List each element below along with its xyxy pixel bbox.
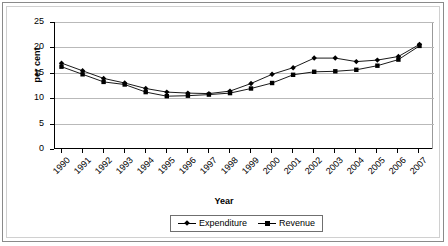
data-point-square bbox=[333, 69, 337, 73]
x-tick-mark bbox=[397, 149, 398, 153]
diamond-marker-icon bbox=[178, 219, 196, 228]
legend-label-revenue: Revenue bbox=[279, 218, 315, 228]
data-point-square bbox=[396, 57, 400, 61]
x-tick-mark bbox=[145, 149, 146, 153]
data-point-square bbox=[165, 94, 169, 98]
x-tick-mark bbox=[355, 149, 356, 153]
data-point-square bbox=[375, 64, 379, 68]
square-marker-icon bbox=[258, 219, 276, 228]
chart-figure: per cent 0510152025 19901991199219931994… bbox=[0, 0, 448, 246]
x-tick-mark bbox=[208, 149, 209, 153]
data-point-square bbox=[249, 86, 253, 90]
data-point-square bbox=[144, 90, 148, 94]
data-point-square bbox=[312, 70, 316, 74]
y-tick-label: 5 bbox=[8, 119, 44, 128]
x-tick-mark bbox=[124, 149, 125, 153]
data-point-square bbox=[207, 92, 211, 96]
x-tick-mark bbox=[250, 149, 251, 153]
data-point-diamond bbox=[311, 55, 316, 60]
data-point-square bbox=[270, 81, 274, 85]
x-tick-mark bbox=[292, 149, 293, 153]
data-point-square bbox=[228, 91, 232, 95]
x-tick-mark bbox=[166, 149, 167, 153]
y-tick-label: 20 bbox=[8, 42, 44, 51]
series-line-expenditure bbox=[62, 44, 420, 93]
data-point-diamond bbox=[375, 57, 380, 62]
legend-item-expenditure[interactable]: Expenditure bbox=[178, 218, 247, 228]
legend-item-revenue[interactable]: Revenue bbox=[258, 218, 315, 228]
x-tick-mark bbox=[376, 149, 377, 153]
plot-area bbox=[54, 22, 433, 149]
x-tick-mark bbox=[313, 149, 314, 153]
x-tick-mark bbox=[61, 149, 62, 153]
data-point-diamond bbox=[164, 89, 169, 94]
x-tick-mark bbox=[418, 149, 419, 153]
x-tick-mark bbox=[334, 149, 335, 153]
y-tick-label: 15 bbox=[8, 68, 44, 77]
data-point-diamond bbox=[354, 59, 359, 64]
data-point-square bbox=[80, 72, 84, 76]
data-point-square bbox=[291, 73, 295, 77]
data-point-square bbox=[417, 44, 421, 48]
series-layer bbox=[55, 22, 434, 149]
y-tick-label: 10 bbox=[8, 93, 44, 102]
x-tick-mark bbox=[103, 149, 104, 153]
y-tick-mark bbox=[50, 149, 54, 150]
data-point-diamond bbox=[248, 81, 253, 86]
x-tick-mark bbox=[187, 149, 188, 153]
y-tick-label: 0 bbox=[8, 144, 44, 153]
data-point-square bbox=[186, 94, 190, 98]
x-tick-mark bbox=[271, 149, 272, 153]
series-line-revenue bbox=[62, 46, 420, 96]
data-point-square bbox=[59, 65, 63, 69]
data-point-diamond bbox=[290, 65, 295, 70]
legend-label-expenditure: Expenditure bbox=[199, 218, 247, 228]
chart-legend: Expenditure Revenue bbox=[170, 215, 323, 232]
data-point-square bbox=[123, 82, 127, 86]
y-tick-label: 25 bbox=[8, 17, 44, 26]
data-point-square bbox=[101, 80, 105, 84]
x-tick-mark bbox=[82, 149, 83, 153]
data-point-diamond bbox=[269, 72, 274, 77]
x-tick-mark bbox=[229, 149, 230, 153]
data-point-diamond bbox=[333, 55, 338, 60]
data-point-square bbox=[354, 68, 358, 72]
x-axis-title: Year bbox=[0, 196, 448, 206]
